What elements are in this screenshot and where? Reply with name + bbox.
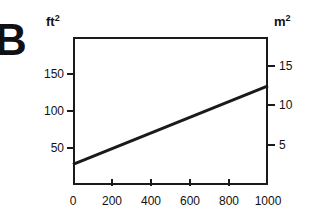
right-axis-tick-label: 5 (279, 139, 286, 151)
x-axis-tick-label: 200 (102, 195, 122, 207)
right-axis-unit-caption: m2 (274, 14, 291, 28)
x-axis-tick-label: 800 (219, 195, 239, 207)
right-axis-unit-base: m (274, 14, 286, 29)
right-axis-tick-marks (267, 66, 275, 146)
right-axis-unit-exponent: 2 (286, 13, 291, 23)
left-axis-unit-caption: ft2 (46, 14, 60, 28)
left-axis-tick-label: 50 (30, 142, 64, 154)
left-axis-tick-label: 100 (30, 105, 64, 117)
panel-label-b: B (0, 18, 26, 62)
left-axis-tick-label: 150 (30, 68, 64, 80)
figure-panel: B ft2 m2 15010050 15105 0200400600800100… (0, 0, 314, 219)
x-axis-tick-label: 600 (180, 195, 200, 207)
left-axis-unit-base: ft (46, 14, 55, 29)
right-axis-tick-label: 15 (279, 60, 292, 72)
plot-frame (73, 37, 268, 185)
left-axis-unit-exponent: 2 (55, 13, 60, 23)
x-axis-tick-label: 0 (70, 195, 77, 207)
x-axis-tick-label: 1000 (255, 195, 282, 207)
right-axis-tick-label: 10 (279, 99, 292, 111)
x-axis-tick-label: 400 (141, 195, 161, 207)
